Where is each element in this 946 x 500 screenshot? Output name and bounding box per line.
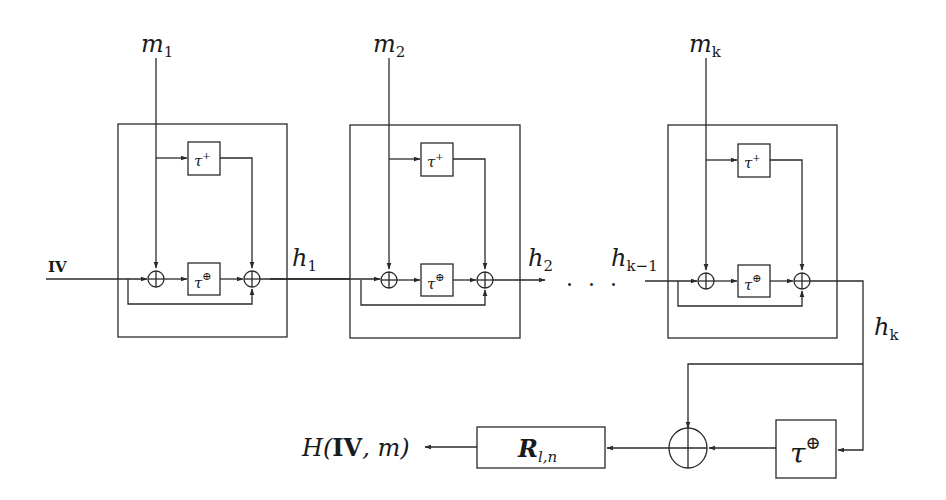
- chain-value-label-2: h2: [528, 244, 553, 275]
- message-label-2: m2: [373, 30, 405, 61]
- xor-b-1: [244, 271, 260, 287]
- hk-branch-line: [688, 364, 863, 428]
- xor-a-1: [148, 271, 164, 287]
- hash-output-label: H(IV, m): [301, 433, 410, 462]
- hash-diagram: m1 τ+ IV τ⊕ h1: [0, 0, 946, 500]
- xor-a-2: [381, 272, 397, 288]
- message-label-k: mk: [689, 30, 722, 61]
- ellipsis: · · ·: [566, 272, 621, 297]
- finalization: τ⊕ Rl,n H(IV, m): [301, 364, 863, 478]
- message-label-1: m1: [141, 30, 173, 61]
- chain-value-label-k: hk: [874, 313, 899, 344]
- chain-value-label-1: h1: [292, 244, 317, 275]
- xor-a-k: [698, 273, 714, 289]
- compression-block-2: m2 τ+ τ⊕ h2: [270, 30, 553, 338]
- xor-b-k: [794, 273, 810, 289]
- iv-label: IV: [48, 258, 67, 276]
- compression-block-1: m1 τ+ IV τ⊕ h1: [46, 30, 378, 337]
- compression-block-k: hk−1 mk τ+ τ⊕ hk: [611, 30, 899, 450]
- chain-value-label-k-minus-1: hk−1: [611, 244, 658, 275]
- final-xor: [669, 428, 707, 468]
- xor-b-2: [477, 272, 493, 288]
